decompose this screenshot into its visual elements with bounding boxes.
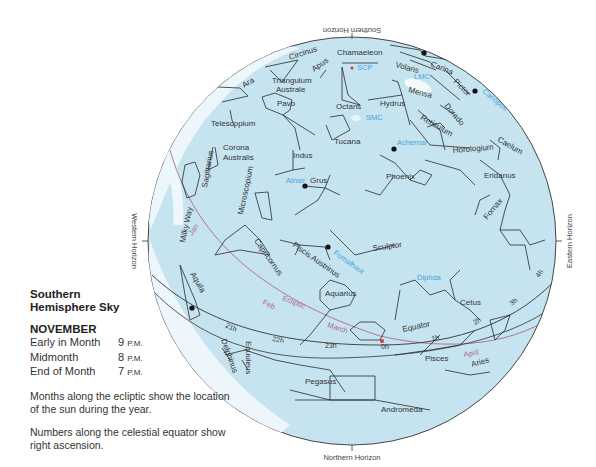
star-label: LMC — [414, 72, 430, 81]
constellation-label: Australe — [276, 85, 306, 94]
constellation-label: Equuleus — [244, 341, 253, 374]
star-label: Diphda — [417, 273, 442, 282]
constellation-label: Hydrus — [380, 99, 405, 108]
constellation-label: Pisces — [425, 354, 449, 363]
bright-star-icon — [325, 244, 330, 249]
legend-title-line2: Hemisphere Sky — [30, 301, 210, 314]
time-ampm: P.M. — [127, 339, 142, 348]
star-label: SMC — [366, 113, 383, 122]
constellation-label: Phoenix — [386, 172, 415, 181]
constellation-label: Octans — [336, 102, 361, 111]
eastern-horizon-label: Eastern Horizon — [565, 214, 574, 268]
bright-star-icon — [472, 88, 477, 93]
right-ascension-label: 0h — [381, 343, 389, 350]
time-ampm: P.M. — [127, 368, 142, 377]
constellation-label: Indus — [293, 151, 313, 160]
legend-title-line1: Southern — [30, 288, 210, 301]
time-row-label: Midmonth — [30, 351, 118, 366]
constellation-label: Pavo — [277, 99, 296, 108]
southern-horizon-label: Southern Horizon — [323, 26, 381, 35]
western-horizon-label: Western Horizon — [130, 213, 139, 269]
constellation-label: Triangulum — [272, 76, 312, 85]
right-ascension-label: 23h — [325, 342, 337, 349]
time-hour: 7 — [118, 365, 124, 377]
constellation-label: Australis — [223, 153, 254, 162]
star-label: Alnair — [286, 176, 306, 185]
time-ampm: P.M. — [127, 354, 142, 363]
northern-horizon-label: Northern Horizon — [323, 453, 380, 462]
legend-note-ecliptic: Months along the ecliptic show the locat… — [30, 390, 230, 416]
constellation-label: Aquarius — [325, 289, 357, 298]
constellation-label: Telescopium — [211, 119, 256, 128]
constellation-label: Grus — [310, 176, 327, 185]
time-row-end: End of Month 7 P.M. — [30, 365, 210, 380]
legend-note-equator: Numbers along the celestial equator show… — [30, 426, 230, 452]
legend-month: NOVEMBER — [30, 323, 210, 336]
south-celestial-pole-marker — [351, 67, 354, 70]
constellation-label: Chamaeleon — [337, 48, 382, 57]
constellation-label: Cetus — [460, 298, 481, 307]
time-row-early: Early in Month 9 P.M. — [30, 336, 210, 351]
constellation-label: Andromeda — [381, 405, 423, 414]
constellation-label: Tucana — [334, 137, 361, 146]
time-row-mid: Midmonth 8 P.M. — [30, 351, 210, 366]
time-row-label: End of Month — [30, 365, 118, 380]
star-label: SCP — [357, 63, 372, 72]
constellation-label: Corona — [223, 143, 250, 152]
constellation-label: Eridanus — [484, 171, 516, 180]
legend-panel: Southern Hemisphere Sky NOVEMBER Early i… — [30, 288, 210, 452]
bright-star-icon — [391, 146, 396, 151]
time-row-label: Early in Month — [30, 336, 118, 351]
time-hour: 8 — [118, 351, 124, 363]
constellation-label: Pegasus — [305, 377, 336, 386]
time-hour: 9 — [118, 336, 124, 348]
star-label: Achernar — [397, 138, 428, 147]
bright-star-icon — [421, 50, 426, 55]
